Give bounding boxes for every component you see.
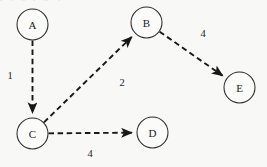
edges-layer bbox=[33, 32, 223, 134]
nodes-layer: ABCDE bbox=[17, 7, 255, 149]
graph-node-b[interactable]: B bbox=[131, 7, 162, 38]
edge-weight-a-c: 1 bbox=[7, 70, 12, 81]
edge-weight-c-d: 4 bbox=[87, 148, 93, 159]
node-label-e: E bbox=[236, 82, 243, 94]
edge-weight-c-b: 2 bbox=[119, 77, 124, 88]
graph-node-d[interactable]: D bbox=[137, 117, 168, 148]
directed-graph-svg: ABCDE 1244 bbox=[0, 0, 267, 167]
graph-node-c[interactable]: C bbox=[17, 118, 48, 149]
node-label-a: A bbox=[29, 19, 37, 31]
node-label-b: B bbox=[143, 17, 150, 29]
graph-node-e[interactable]: E bbox=[224, 72, 255, 103]
graph-figure-canvas: y j g p g q ABCDE 1244 bbox=[0, 0, 267, 167]
node-label-c: C bbox=[29, 128, 36, 140]
node-label-d: D bbox=[149, 127, 157, 139]
graph-node-a[interactable]: A bbox=[17, 9, 48, 40]
edge-weight-b-e: 4 bbox=[200, 28, 206, 39]
graph-edge-c-d bbox=[49, 133, 132, 134]
graph-edge-b-e bbox=[160, 32, 223, 76]
